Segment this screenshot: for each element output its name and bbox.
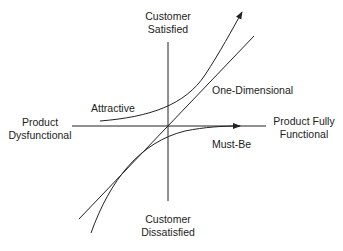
- one-dimensional-label: One-Dimensional: [212, 84, 293, 97]
- label-line: Product: [2, 116, 78, 129]
- label-line: Product Fully: [266, 115, 342, 128]
- product-dysfunctional-label: Product Dysfunctional: [2, 116, 78, 142]
- attractive-label: Attractive: [91, 102, 135, 115]
- label-line: Customer: [130, 213, 206, 226]
- customer-satisfied-label: Customer Satisfied: [136, 10, 200, 36]
- product-fully-functional-label: Product Fully Functional: [266, 115, 342, 141]
- label-line: Functional: [266, 128, 342, 141]
- label-line: Satisfied: [136, 23, 200, 36]
- label-line: Customer: [136, 10, 200, 23]
- label-line: Dissatisfied: [130, 226, 206, 239]
- label-line: Dysfunctional: [2, 129, 78, 142]
- must-be-label: Must-Be: [212, 138, 251, 151]
- one-dimensional-line: [79, 36, 254, 219]
- customer-dissatisfied-label: Customer Dissatisfied: [130, 213, 206, 239]
